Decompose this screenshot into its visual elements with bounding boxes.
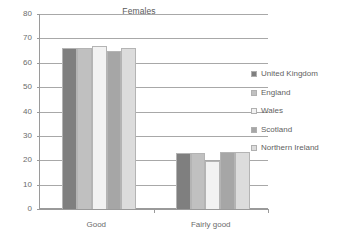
legend-swatch-icon <box>251 145 257 151</box>
legend-swatch-icon <box>251 71 257 77</box>
y-axis-label: 50 <box>0 83 32 91</box>
bar <box>205 161 220 209</box>
legend-item[interactable]: Wales <box>251 107 319 115</box>
legend-item-label: Scotland <box>261 126 292 134</box>
y-axis-label: 10 <box>0 181 32 189</box>
y-axis-label: 0 <box>0 205 32 213</box>
bars-layer <box>39 14 268 209</box>
y-axis-label: 60 <box>0 59 32 67</box>
x-tick <box>154 209 155 213</box>
bar <box>92 46 107 209</box>
bar <box>107 51 122 209</box>
legend-item[interactable]: United Kingdom <box>251 70 319 78</box>
legend-item[interactable]: England <box>251 89 319 97</box>
x-tick <box>268 209 269 213</box>
legend-item-label: United Kingdom <box>261 70 318 78</box>
x-axis-label: Fairly good <box>154 221 269 229</box>
bar <box>176 153 191 209</box>
legend-swatch-icon <box>251 127 257 133</box>
y-axis-label: 30 <box>0 132 32 140</box>
y-axis-label: 40 <box>0 108 32 116</box>
chart-legend: United KingdomEnglandWalesScotlandNorthe… <box>251 70 319 163</box>
legend-item[interactable]: Northern Ireland <box>251 144 319 152</box>
legend-item-label: Wales <box>261 107 283 115</box>
bar <box>220 152 235 209</box>
y-tick-0 <box>37 209 40 210</box>
bar <box>121 48 136 209</box>
x-axis-label: Good <box>39 221 154 229</box>
bar <box>62 48 77 209</box>
chart-container: Females 80706050403020100 GoodFairly goo… <box>0 0 338 236</box>
legend-item-label: Northern Ireland <box>261 144 319 152</box>
y-axis-label: 20 <box>0 156 32 164</box>
bar <box>77 48 92 209</box>
legend-item[interactable]: Scotland <box>251 126 319 134</box>
legend-swatch-icon <box>251 90 257 96</box>
bar <box>191 153 206 209</box>
y-axis-label: 70 <box>0 34 32 42</box>
legend-item-label: England <box>261 89 290 97</box>
bar <box>235 152 250 209</box>
y-axis-label: 80 <box>0 10 32 18</box>
legend-swatch-icon <box>251 108 257 114</box>
